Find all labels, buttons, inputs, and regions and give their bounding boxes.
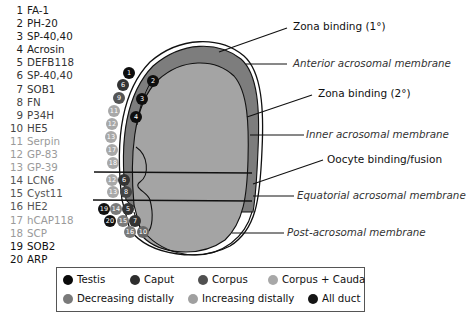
all-duct-dot-icon: [308, 294, 318, 304]
marker-2: 2: [147, 75, 159, 87]
svg-text:18: 18: [109, 159, 117, 167]
label-post-acrosomal-membrane: Post-acrosomal membrane: [287, 226, 426, 238]
sperm-nucleus: [132, 63, 248, 252]
label-oocyte-binding-fusion: Oocyte binding/fusion: [327, 153, 442, 165]
callout-oocyte: [253, 160, 323, 184]
caput-dot-icon: [130, 275, 140, 285]
svg-text:3: 3: [140, 95, 144, 103]
svg-text:17: 17: [108, 146, 116, 154]
marker-14: 14: [110, 203, 122, 215]
marker-13b: 13: [107, 186, 119, 198]
svg-text:2: 2: [151, 77, 155, 85]
callout-zona-primary: [219, 28, 287, 52]
svg-text:14: 14: [112, 205, 120, 213]
corpus-cauda-dot-icon: [268, 275, 278, 285]
legend-item-corpus-cauda: Corpus + Cauda: [268, 274, 365, 285]
marker-20: 20: [104, 215, 116, 227]
label-inner-acrosomal-membrane: Inner acrosomal membrane: [306, 128, 449, 140]
svg-text:5: 5: [126, 205, 130, 213]
marker-5: 5: [122, 203, 134, 215]
legend-item-caput: Caput: [130, 274, 174, 285]
svg-text:13: 13: [109, 188, 117, 196]
svg-text:6: 6: [122, 176, 126, 184]
marker-12b: 12: [106, 174, 118, 186]
svg-text:10: 10: [139, 228, 147, 236]
svg-text:12: 12: [108, 176, 116, 184]
svg-text:20: 20: [106, 217, 114, 225]
marker-6b: 6: [118, 174, 130, 186]
legend-item-increasing-distally: Increasing distally: [188, 293, 294, 304]
marker-12: 12: [106, 118, 118, 130]
increasing-distally-dot-icon: [188, 294, 198, 304]
legend: Testis Caput Corpus Corpus + Cauda Decre…: [56, 267, 365, 312]
svg-text:1: 1: [127, 69, 131, 77]
svg-text:8: 8: [124, 188, 128, 196]
svg-text:11: 11: [110, 107, 118, 115]
marker-15: 15: [117, 215, 129, 227]
label-zona-binding-primary: Zona binding (1°): [293, 20, 386, 32]
svg-text:13: 13: [107, 133, 115, 141]
marker-10: 10: [137, 226, 149, 238]
decreasing-distally-dot-icon: [63, 294, 73, 304]
marker-7: 7: [129, 215, 141, 227]
marker-16: 16: [124, 226, 136, 238]
marker-13: 13: [105, 131, 117, 143]
marker-8: 8: [120, 186, 132, 198]
svg-text:12: 12: [108, 120, 116, 128]
label-anterior-acrosomal-membrane: Anterior acrosomal membrane: [293, 57, 451, 69]
marker-18: 18: [107, 157, 119, 169]
legend-item-all-duct: All duct: [308, 293, 360, 304]
svg-text:7: 7: [133, 217, 137, 225]
legend-item-corpus: Corpus: [198, 274, 248, 285]
svg-text:4: 4: [134, 113, 138, 121]
marker-4: 4: [130, 111, 142, 123]
svg-text:16: 16: [126, 228, 134, 236]
testis-dot-icon: [63, 275, 73, 285]
svg-text:9: 9: [117, 94, 121, 102]
legend-item-decreasing-distally: Decreasing distally: [63, 293, 174, 304]
marker-6: 6: [117, 79, 129, 91]
svg-text:19: 19: [100, 205, 108, 213]
label-zona-binding-secondary: Zona binding (2°): [318, 87, 411, 99]
marker-19: 19: [98, 203, 110, 215]
corpus-dot-icon: [198, 275, 208, 285]
svg-text:6: 6: [121, 81, 125, 89]
legend-item-testis: Testis: [63, 274, 105, 285]
marker-11: 11: [108, 105, 120, 117]
marker-3: 3: [136, 93, 148, 105]
marker-17: 17: [106, 144, 118, 156]
label-equatorial-acrosomal-membrane: Equatorial acrosomal membrane: [297, 189, 466, 201]
marker-1: 1: [123, 67, 135, 79]
svg-text:15: 15: [119, 217, 127, 225]
marker-9: 9: [113, 92, 125, 104]
